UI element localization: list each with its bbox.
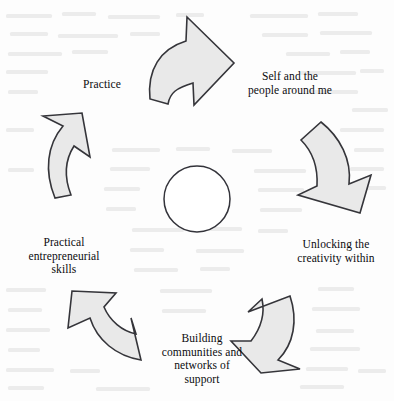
node-label-unlocking-creativity: Unlocking the creativity within xyxy=(279,238,393,265)
node-label-building-communities: Building communities and networks of sup… xyxy=(142,332,262,386)
arrow-left xyxy=(43,113,90,198)
arrow-right xyxy=(298,122,371,213)
cycle-diagram: Practice Self and the people around me U… xyxy=(0,0,394,401)
node-label-practice: Practice xyxy=(50,78,154,92)
node-label-practical-entrepreneurial-skills: Practical entrepreneurial skills xyxy=(6,236,122,277)
arrow-bottom-left xyxy=(68,291,141,360)
node-label-self-and-people: Self and the people around me xyxy=(228,70,352,97)
center-circle xyxy=(164,166,230,232)
arrow-top xyxy=(150,17,234,105)
